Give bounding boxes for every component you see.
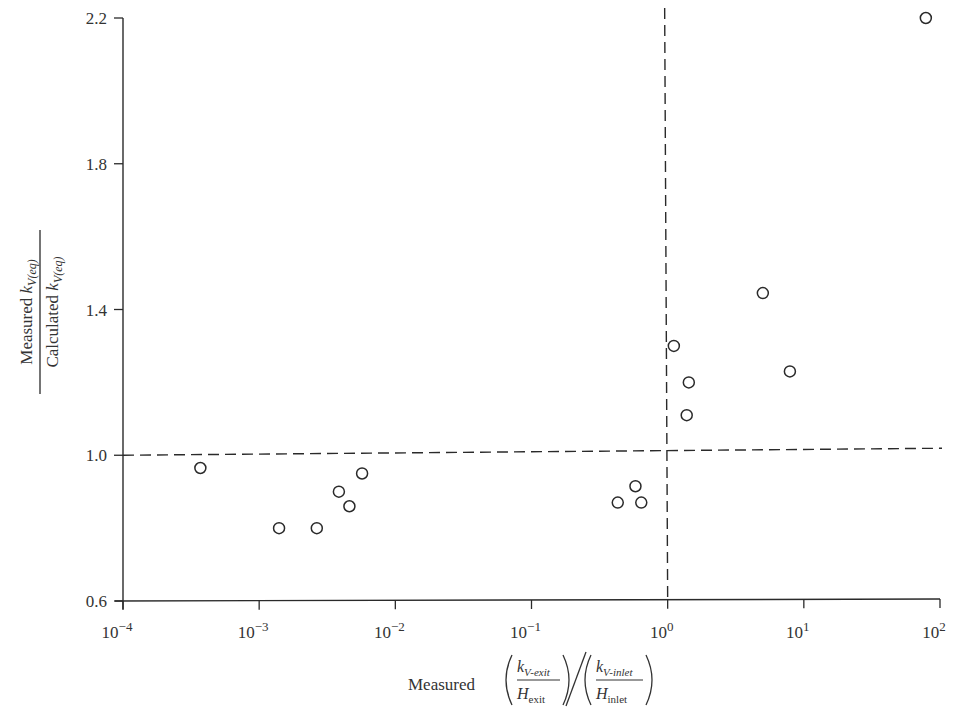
data-point xyxy=(920,13,931,24)
data-point xyxy=(683,377,694,388)
data-point xyxy=(784,366,795,377)
data-point xyxy=(612,497,623,508)
tick-labels: 0.61.01.41.82.210−410−310−210−1100101102 xyxy=(86,9,946,642)
y-label-denominator-prefix: Calculated xyxy=(43,291,62,368)
svg-text:Measured kV(eq): Measured kV(eq) xyxy=(17,259,39,364)
x-axis-label: Measured kV-exit Hexit kV-inlet Hinlet xyxy=(408,652,652,706)
svg-text:Hexit: Hexit xyxy=(516,685,545,705)
x-tick-label: 10−1 xyxy=(510,619,541,642)
scatter-chart: 0.61.01.41.82.210−410−310−210−1100101102… xyxy=(0,0,964,720)
x-tick-label: 101 xyxy=(786,619,810,642)
y-tick-label: 1.0 xyxy=(86,446,107,465)
y-tick-label: 0.6 xyxy=(86,592,107,611)
data-points xyxy=(195,13,931,534)
data-point xyxy=(344,501,355,512)
data-point xyxy=(668,340,679,351)
svg-text:Hinlet: Hinlet xyxy=(595,685,627,705)
x-tick-label: 10−4 xyxy=(102,619,133,642)
x-axis-line xyxy=(115,599,940,601)
data-point xyxy=(195,463,206,474)
x-tick-label: 100 xyxy=(650,619,674,642)
svg-text:kV-inlet: kV-inlet xyxy=(596,658,633,678)
data-point xyxy=(311,523,322,534)
data-point xyxy=(333,486,344,497)
data-point xyxy=(630,481,641,492)
data-point xyxy=(357,468,368,479)
svg-text:Calculated kV(eq): Calculated kV(eq) xyxy=(43,256,65,367)
y-tick-label: 2.2 xyxy=(86,9,107,28)
data-point xyxy=(274,523,285,534)
data-point xyxy=(681,410,692,421)
y-label-numerator-prefix: Measured xyxy=(17,293,36,364)
axes xyxy=(114,18,940,610)
x-tick-label: 102 xyxy=(922,619,946,642)
y-tick-label: 1.4 xyxy=(86,301,108,320)
x-label-prefix: Measured xyxy=(408,675,476,694)
data-point xyxy=(636,497,647,508)
svg-text:kV-exit: kV-exit xyxy=(517,658,551,678)
horizontal-reference-line xyxy=(123,448,942,455)
y-tick-label: 1.8 xyxy=(86,155,107,174)
reference-lines xyxy=(123,8,942,600)
y-axis-label: Measured kV(eq) Calculated kV(eq) xyxy=(17,230,65,394)
data-point xyxy=(757,288,768,299)
vertical-reference-line xyxy=(665,8,668,600)
x-tick-label: 10−3 xyxy=(238,619,269,642)
x-tick-label: 10−2 xyxy=(374,619,405,642)
